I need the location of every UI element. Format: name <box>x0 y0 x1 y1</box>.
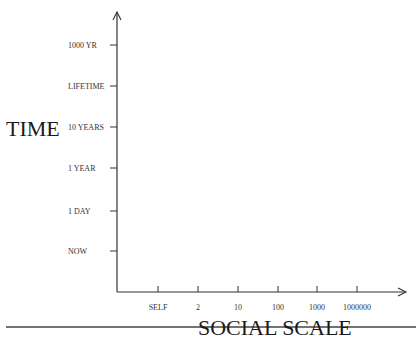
y-tick-label: 1 YEAR <box>68 164 95 173</box>
y-tick-label: 10 YEARS <box>68 123 104 132</box>
x-tick-label: 10 <box>234 303 242 312</box>
axes-diagram <box>0 0 416 353</box>
x-tick-label: SELF <box>149 303 168 312</box>
y-tick-label: NOW <box>68 247 87 256</box>
x-tick-label: 2 <box>196 303 200 312</box>
y-tick-label: 1000 YR <box>68 41 97 50</box>
y-axis-title: TIME <box>6 116 60 142</box>
x-tick-label: 100 <box>272 303 284 312</box>
y-tick-label: LIFETIME <box>68 82 104 91</box>
x-ticks <box>158 286 357 292</box>
y-tick-label: 1 DAY <box>68 207 91 216</box>
x-tick-label: 1000000 <box>343 303 371 312</box>
x-axis-title: SOCIAL SCALE <box>198 315 352 341</box>
x-tick-label: 1000 <box>309 303 325 312</box>
y-ticks <box>110 45 117 251</box>
